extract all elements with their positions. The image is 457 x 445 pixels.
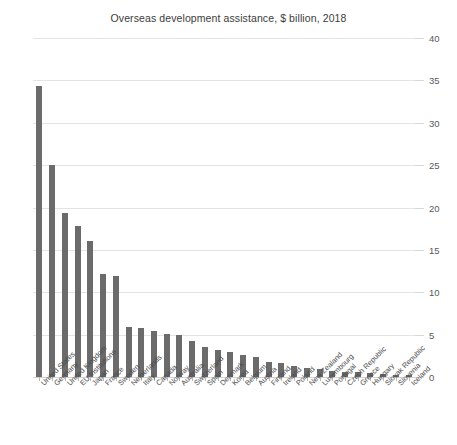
bar <box>36 86 42 377</box>
bar <box>113 276 119 377</box>
chart-title: Overseas development assistance, $ billi… <box>0 12 457 24</box>
y-tick-label: 15 <box>429 244 440 255</box>
y-tick-mark <box>415 208 424 209</box>
y-tick-mark <box>415 38 424 39</box>
y-tick-mark <box>415 80 424 81</box>
y-tick-label: 25 <box>429 160 440 171</box>
bar-chart: Overseas development assistance, $ billi… <box>0 0 457 445</box>
y-axis: 0510152025303540 <box>415 38 457 377</box>
y-tick-label: 20 <box>429 202 440 213</box>
y-tick-label: 10 <box>429 287 440 298</box>
y-tick-mark <box>415 123 424 124</box>
y-tick-label: 5 <box>429 329 434 340</box>
y-tick-mark <box>415 165 424 166</box>
y-tick-mark <box>415 292 424 293</box>
x-axis-labels: United StatesGermanyUnited KingdomEU Ins… <box>33 381 453 445</box>
y-tick-mark <box>415 250 424 251</box>
y-tick-mark <box>415 335 424 336</box>
y-tick-label: 40 <box>429 33 440 44</box>
y-tick-label: 35 <box>429 75 440 86</box>
bar <box>49 165 55 377</box>
y-tick-label: 30 <box>429 117 440 128</box>
bars-layer <box>33 38 415 377</box>
